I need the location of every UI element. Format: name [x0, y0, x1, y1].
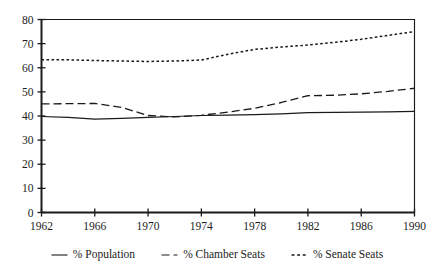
- line-chart: 01020304050607080 1962196619701974197819…: [0, 0, 434, 275]
- y-tick-60: 60: [22, 62, 34, 74]
- legend-label-senate-seats: % Senate Seats: [313, 249, 383, 261]
- series-line-senate-seats: [42, 32, 415, 62]
- chart-legend: % Population % Chamber Seats % Senate Se…: [0, 243, 434, 267]
- solid-line-swatch: [51, 251, 68, 259]
- y-tick-80: 80: [22, 14, 34, 26]
- y-tick-70: 70: [22, 38, 34, 50]
- x-tick-1962: 1962: [30, 220, 53, 232]
- legend-label-population: % Population: [73, 249, 135, 261]
- dotted-line-swatch: [291, 251, 308, 259]
- plot-frame: [42, 20, 415, 213]
- y-tick-20: 20: [22, 158, 34, 170]
- x-tick-1974: 1974: [190, 220, 213, 232]
- legend-item-senate-seats: % Senate Seats: [291, 249, 383, 261]
- data-series-group: [42, 32, 415, 120]
- y-tick-10: 10: [22, 182, 34, 194]
- x-tick-1966: 1966: [83, 220, 106, 232]
- series-line-population: [42, 111, 415, 119]
- x-tick-1978: 1978: [243, 220, 266, 232]
- legend-item-population: % Population: [51, 249, 135, 261]
- dashed-line-swatch: [161, 251, 178, 259]
- y-tick-40: 40: [22, 110, 34, 122]
- x-tick-1990: 1990: [403, 220, 426, 232]
- y-tick-30: 30: [22, 134, 34, 146]
- plot-area: 01020304050607080 1962196619701974197819…: [0, 0, 434, 275]
- x-tick-1970: 1970: [137, 220, 160, 232]
- y-axis-tick-labels: 01020304050607080: [22, 14, 34, 219]
- x-tick-1982: 1982: [296, 220, 319, 232]
- x-axis-tick-labels: 19621966197019741978198219861990: [30, 220, 426, 232]
- y-tick-50: 50: [22, 86, 34, 98]
- x-tick-1986: 1986: [350, 220, 373, 232]
- legend-item-chamber-seats: % Chamber Seats: [161, 249, 265, 261]
- axis-ticks: [38, 20, 415, 217]
- legend-label-chamber-seats: % Chamber Seats: [183, 249, 265, 261]
- y-tick-0: 0: [28, 207, 34, 219]
